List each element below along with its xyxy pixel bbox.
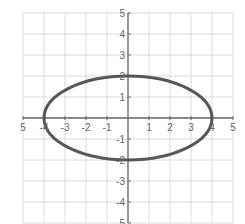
y-tick-label: 5 [119, 8, 125, 19]
x-tick-label: -2 [82, 122, 91, 133]
x-tick-label: 5 [230, 122, 236, 133]
x-tick-label: -3 [61, 122, 70, 133]
x-tick-label: -4 [40, 122, 49, 133]
x-tick-label: 5 [20, 122, 26, 133]
y-tick-label: -5 [116, 218, 125, 224]
ellipse-graph: 5-4-3-2-112345 54321-1-2-3-4-5 [0, 0, 245, 224]
x-tick-label: 1 [146, 122, 152, 133]
y-tick-label: 2 [119, 71, 125, 82]
y-axis-tick-labels: 54321-1-2-3-4-5 [116, 8, 125, 224]
y-tick-label: -1 [116, 134, 125, 145]
x-tick-label: 2 [167, 122, 173, 133]
y-tick-label: 1 [119, 92, 125, 103]
y-tick-label: -2 [116, 155, 125, 166]
y-tick-label: 4 [119, 29, 125, 40]
y-tick-label: -4 [116, 197, 125, 208]
x-tick-label: 4 [209, 122, 215, 133]
y-tick-label: -3 [116, 176, 125, 187]
y-tick-label: 3 [119, 50, 125, 61]
axes [23, 13, 233, 223]
x-tick-label: 3 [188, 122, 194, 133]
x-tick-label: -1 [103, 122, 112, 133]
